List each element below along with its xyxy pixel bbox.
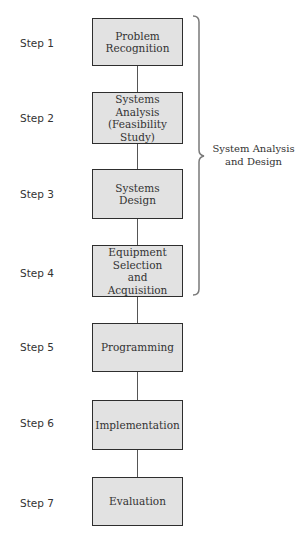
curly-brace-icon [0,0,301,542]
system-development-flowchart: Step 1 Step 2 Step 3 Step 4 Step 5 Step … [0,0,301,542]
brace-label-system-analysis-and-design: System Analysis and Design [206,143,301,168]
